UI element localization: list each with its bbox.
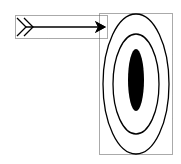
arrow-icon[interactable] [16,16,108,39]
arrow-fletching-icon [17,18,26,36]
target-icon[interactable] [100,14,173,155]
diagram-canvas [0,0,181,164]
target-bullseye [128,49,144,111]
